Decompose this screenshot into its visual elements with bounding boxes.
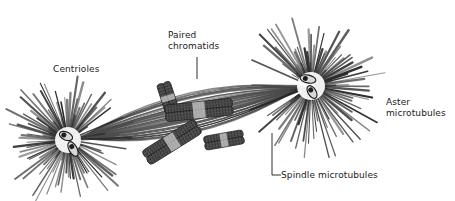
label-centrioles: Centrioles [53,64,100,75]
label-paired-chromatids: Paired chromatids [168,30,219,52]
label-spindle-microtubules: Spindle microtubules [281,170,378,181]
label-aster-microtubules: Aster microtubules [386,97,446,119]
mitotic-spindle-figure: Centrioles Paired chromatids Aster micro… [0,0,455,201]
